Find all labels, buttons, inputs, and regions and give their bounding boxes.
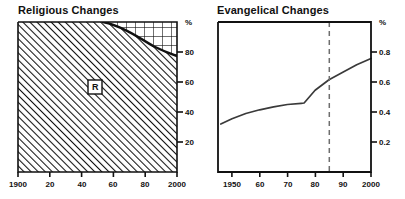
- religious-annotation-R-label: R: [92, 82, 99, 92]
- evangelical-y-tick-label-02: 0.2: [379, 138, 390, 147]
- evangelical-y-tick-label-04: 0.4: [379, 108, 390, 117]
- religious-x-tick-label-20: 20: [36, 180, 64, 189]
- religious-plot-svg: [0, 0, 203, 199]
- evangelical-y-tick-label-08: 0.8: [379, 48, 390, 57]
- evangelical-y-unit-label: %: [379, 18, 386, 27]
- evangelical-y-tick-label-06: 0.6: [379, 78, 390, 87]
- chart-panel-religious: Religious Changes: [0, 0, 203, 199]
- chart-panel-evangelical: Evangelical Changes: [203, 0, 405, 199]
- religious-x-tick-label-60: 60: [99, 180, 127, 189]
- evangelical-x-tick-label-60: 60: [246, 180, 274, 189]
- evangelical-plot-background: [218, 22, 371, 172]
- evangelical-x-tick-label-1950: 1950: [218, 180, 246, 189]
- evangelical-plot-svg: [203, 0, 405, 199]
- religious-x-tick-label-40: 40: [68, 180, 96, 189]
- religious-y-tick-label-80: 80: [185, 48, 194, 57]
- evangelical-x-tick-label-70: 70: [274, 180, 302, 189]
- evangelical-x-tick-label-90: 90: [329, 180, 357, 189]
- religious-y-tick-label-60: 60: [185, 78, 194, 87]
- religious-y-tick-label-40: 40: [185, 108, 194, 117]
- religious-x-tick-label-1900: 1900: [4, 180, 32, 189]
- evangelical-x-tick-label-80: 80: [301, 180, 329, 189]
- religious-x-tick-label-80: 80: [131, 180, 159, 189]
- religious-x-tick-label-2000: 2000: [163, 180, 191, 189]
- evangelical-x-tick-label-2000: 2000: [357, 180, 385, 189]
- religious-y-unit-label: %: [185, 18, 192, 27]
- religious-y-tick-label-20: 20: [185, 138, 194, 147]
- figure-canvas: Religious Changes: [0, 0, 405, 199]
- religious-y-ticks: [177, 52, 183, 142]
